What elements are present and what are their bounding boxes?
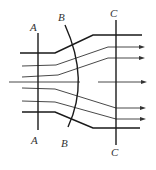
lower-wall	[22, 112, 140, 128]
label-b-top: B	[58, 11, 65, 23]
arrowhead-icon	[141, 80, 147, 84]
arrowhead-icon	[139, 56, 145, 60]
section-labels: A A B B C C	[29, 7, 119, 158]
cross-sections	[38, 20, 116, 145]
section-b-arc	[65, 25, 78, 127]
arrowhead-icon	[140, 117, 146, 121]
streamline-diagram: A A B B C C	[0, 0, 156, 170]
arrowheads	[139, 45, 147, 121]
streamline-4	[22, 101, 141, 119]
label-b-bottom: B	[61, 137, 68, 149]
arrowhead-icon	[139, 45, 145, 49]
streamline-3	[22, 88, 141, 108]
label-a-bottom: A	[30, 134, 38, 146]
arrowhead-icon	[140, 106, 146, 110]
label-a-top: A	[29, 21, 37, 33]
streamline-2	[22, 58, 140, 77]
streamline-1	[22, 47, 140, 66]
label-c-top: C	[110, 7, 118, 19]
label-c-bottom: C	[111, 146, 119, 158]
